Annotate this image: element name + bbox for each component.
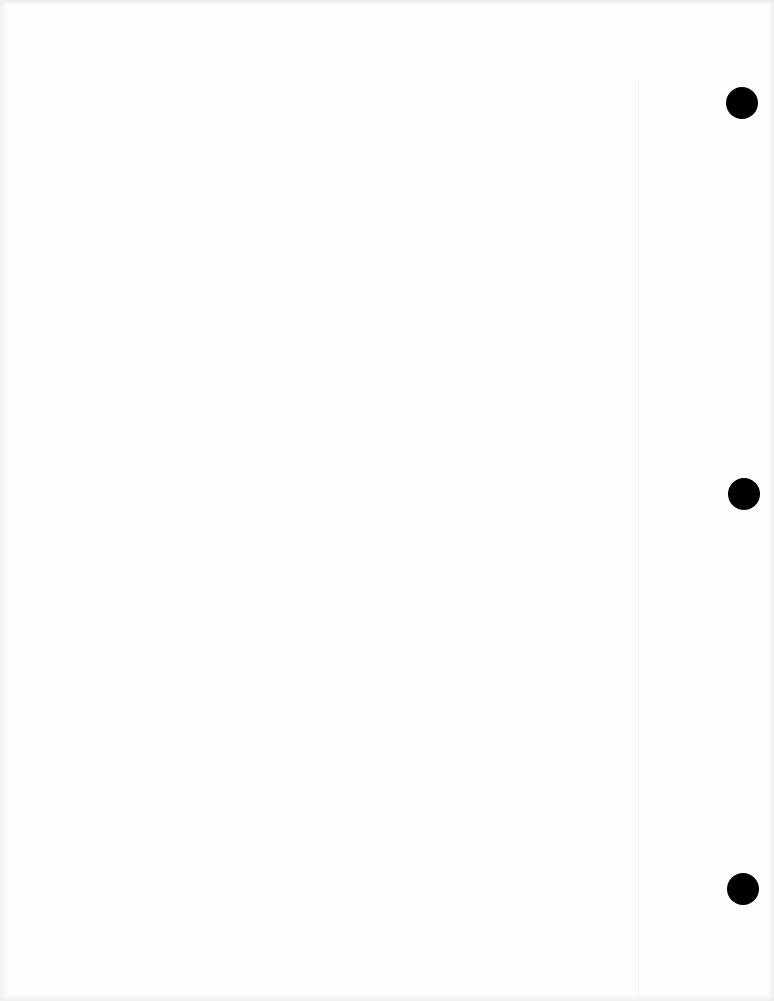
scan-edge-bottom xyxy=(0,995,774,1001)
punch-hole-top xyxy=(726,87,758,119)
scan-edge-right xyxy=(768,0,774,1001)
scanned-page xyxy=(0,0,774,1001)
scan-edge-left xyxy=(0,0,8,1001)
fold-line xyxy=(638,80,639,1001)
punch-hole-bottom xyxy=(727,873,759,905)
punch-hole-middle xyxy=(728,478,760,510)
scan-edge-top xyxy=(0,0,774,5)
